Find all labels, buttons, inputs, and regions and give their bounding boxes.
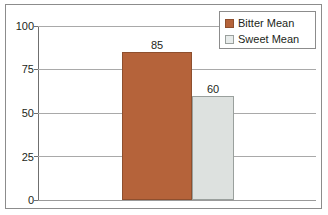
y-axis-label-75: 75	[22, 64, 34, 75]
y-axis-label-50: 50	[22, 108, 34, 119]
bar-bitter-mean[interactable]	[122, 52, 192, 200]
y-tick-0	[34, 200, 38, 201]
legend-item-bitter-mean[interactable]: Bitter Mean	[225, 15, 311, 31]
legend-label-bitter: Bitter Mean	[238, 18, 294, 29]
legend-label-sweet: Sweet Mean	[238, 34, 299, 45]
y-axis-label-100: 100	[16, 21, 34, 32]
legend-item-sweet-mean[interactable]: Sweet Mean	[225, 31, 311, 47]
y-tick-25	[34, 156, 38, 157]
bar-chart-figure: 100 75 50 25 0 85 60 Bitter M	[0, 0, 328, 215]
bar-value-sweet: 60	[192, 84, 234, 95]
plot-area: 85 60	[38, 26, 316, 200]
y-tick-50	[34, 113, 38, 114]
gridline-baseline-0	[38, 200, 316, 201]
bar-sweet-mean[interactable]	[192, 96, 234, 200]
legend-swatch-icon-bitter	[225, 19, 234, 28]
legend-swatch-icon-sweet	[225, 35, 234, 44]
legend: Bitter Mean Sweet Mean	[219, 11, 316, 49]
y-tick-75	[34, 69, 38, 70]
y-axis-label-25: 25	[22, 152, 34, 163]
y-tick-100	[34, 26, 38, 27]
bar-value-bitter: 85	[122, 40, 192, 51]
